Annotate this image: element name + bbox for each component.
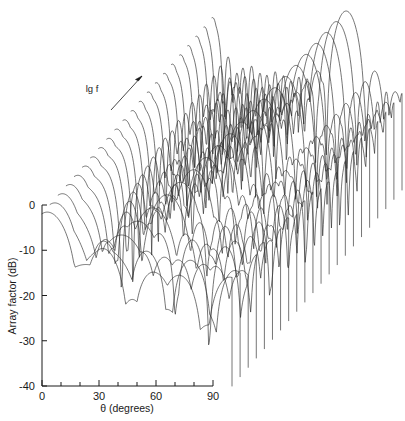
x-axis-ticks [42, 380, 213, 386]
x-axis-tick-label: 60 [150, 390, 162, 402]
y-axis-tick-labels: 0-10-20-30-40 [19, 199, 35, 392]
array-factor-waterfall-figure: 0-10-20-30-40 0306090 lg f Array factor … [0, 0, 405, 421]
x-axis-tick-labels: 0306090 [39, 390, 219, 402]
y-axis-tick-label: -30 [19, 335, 35, 347]
y-axis-ticks [42, 205, 47, 386]
y-axis-title: Array factor (dB) [6, 257, 18, 334]
lg-f-arrow-head-icon [136, 76, 143, 81]
lg-f-arrow-shaft [111, 76, 142, 110]
plot-canvas: 0-10-20-30-40 0306090 lg f Array factor … [0, 0, 405, 421]
x-axis-tick-label: 0 [39, 390, 45, 402]
x-axis-tick-label: 30 [93, 390, 105, 402]
y-axis-tick-label: -10 [19, 244, 35, 256]
depth-axis-annotation: lg f [86, 76, 142, 110]
x-axis-title: θ (degrees) [100, 402, 154, 414]
waterfall-trace [66, 185, 256, 345]
y-axis-tick-label: -40 [19, 380, 35, 392]
depth-axis-label: lg f [86, 83, 99, 94]
x-axis-tick-label: 90 [207, 390, 219, 402]
y-axis-tick-label: -20 [19, 290, 35, 302]
waterfall-traces [42, 11, 402, 386]
y-axis-tick-label: 0 [29, 199, 35, 211]
